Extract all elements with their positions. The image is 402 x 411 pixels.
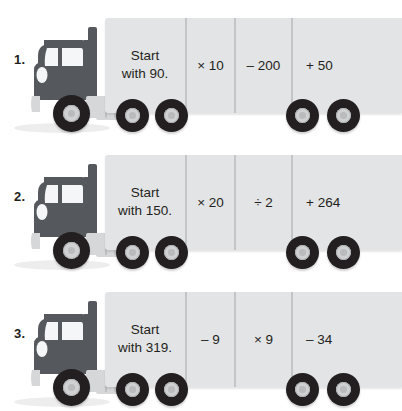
start-line-1: Start xyxy=(131,48,160,63)
wheel-icon xyxy=(155,99,188,132)
wheel-icon xyxy=(53,369,90,406)
start-line-1: Start xyxy=(131,185,160,200)
wheel-icon xyxy=(116,99,149,132)
wheel-icon xyxy=(327,99,360,132)
wheel-icon xyxy=(53,232,90,269)
operation-cell-2: – 200 xyxy=(234,18,291,113)
wheel-icon xyxy=(53,95,90,132)
wheel-icon xyxy=(116,373,149,406)
operation-cell-2: ÷ 2 xyxy=(234,155,291,250)
operation-cell-2: × 9 xyxy=(234,292,291,387)
operation-cell-1: – 9 xyxy=(185,292,234,387)
wheel-icon xyxy=(286,236,319,269)
problem-row: 3. Startwith 319. – 9 × 9 xyxy=(0,274,400,411)
wheel-icon xyxy=(327,236,360,269)
trailer-body: Startwith 150. × 20 ÷ 2 + 264 xyxy=(105,155,402,250)
wheel-icon xyxy=(286,99,319,132)
headlight-icon xyxy=(37,341,48,357)
wheel-icon xyxy=(116,236,149,269)
problem-row: 2. Startwith 150. × 20 ÷ 2 xyxy=(0,137,400,274)
wheel-icon xyxy=(155,373,188,406)
wheel-icon xyxy=(155,236,188,269)
headlight-icon xyxy=(37,204,48,220)
operation-cell-1: × 20 xyxy=(185,155,234,250)
headlight-icon xyxy=(37,67,48,83)
problem-row: 1. Startwith 90. × 10 – 200 xyxy=(0,0,400,137)
start-line-1: Start xyxy=(131,322,160,337)
start-line-2: with 319. xyxy=(118,340,172,355)
start-line-2: with 90. xyxy=(122,66,169,81)
trailer-body: Startwith 90. × 10 – 200 + 50 xyxy=(105,18,402,113)
wheel-icon xyxy=(327,373,360,406)
operation-cell-1: × 10 xyxy=(185,18,234,113)
trailer-body: Startwith 319. – 9 × 9 – 34 xyxy=(105,292,402,387)
start-line-2: with 150. xyxy=(118,203,172,218)
wheel-icon xyxy=(286,373,319,406)
